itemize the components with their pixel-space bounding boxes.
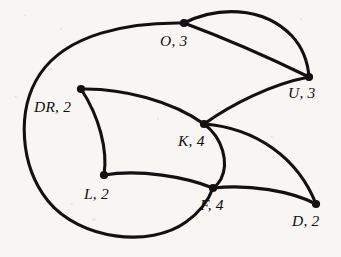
- graph-edge-DR-L: [81, 89, 105, 175]
- graph-edge-DR-K: [81, 89, 204, 124]
- graph-vertex-F: [209, 184, 217, 192]
- vertex-label-L: L, 2: [84, 186, 109, 202]
- graph-vertex-K: [200, 120, 208, 128]
- vertex-layer: [77, 19, 320, 208]
- graph-diagram-figure: O, 3U, 3DR, 2K, 4L, 2F, 4D, 2: [0, 0, 341, 257]
- graph-edge-O-U: [184, 23, 309, 77]
- vertex-label-O: O, 3: [160, 33, 188, 49]
- graph-edge-K-F: [204, 124, 224, 188]
- graph-edge-F-D: [213, 187, 316, 204]
- graph-edge-O-F: [24, 23, 213, 237]
- vertex-label-DR: DR, 2: [34, 99, 71, 115]
- graph-vertex-O: [180, 19, 188, 27]
- vertex-label-F: F, 4: [200, 197, 224, 213]
- vertex-label-K: K, 4: [178, 133, 205, 149]
- graph-vertex-U: [305, 73, 313, 81]
- graph-vertex-DR: [77, 85, 85, 93]
- graph-vertex-L: [100, 171, 108, 179]
- graph-vertex-D: [312, 200, 320, 208]
- vertex-label-U: U, 3: [288, 85, 316, 101]
- graph-edge-K-D: [204, 124, 316, 204]
- vertex-label-D: D, 2: [292, 213, 320, 229]
- graph-edge-L-F: [104, 173, 213, 188]
